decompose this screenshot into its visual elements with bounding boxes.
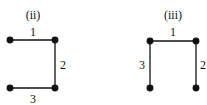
diagram-title-ii: (ii) [26, 9, 41, 21]
diagram-iii [147, 38, 199, 91]
edge-label-2: 2 [200, 59, 206, 71]
node [7, 85, 13, 91]
edge-label-2: 2 [60, 59, 66, 71]
node [193, 38, 199, 44]
node [7, 37, 13, 43]
diagram-ii [7, 37, 58, 91]
edge-label-1: 1 [170, 26, 176, 38]
node [52, 37, 58, 43]
edge-label-3: 3 [139, 59, 145, 71]
diagram-title-iii: (iii) [164, 9, 182, 21]
node [193, 85, 199, 91]
node [147, 85, 153, 91]
edge-label-3: 3 [30, 93, 36, 105]
edge-label-1: 1 [30, 26, 36, 38]
node [52, 85, 58, 91]
node [147, 38, 153, 44]
